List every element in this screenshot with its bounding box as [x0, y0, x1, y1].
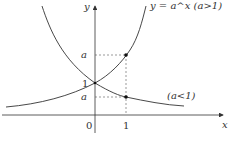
upper-a-label: a — [81, 49, 87, 60]
point-intersection — [94, 82, 97, 85]
curve-decay — [42, 6, 184, 106]
y-axis-label: y — [83, 1, 90, 12]
point-growth-at-1 — [124, 53, 128, 57]
x-axis-label: x — [222, 119, 228, 130]
y-tick-one: 1 — [82, 78, 88, 89]
curve-growth — [6, 6, 146, 107]
diagram-canvas: y x 0 1 1 a a y = a^x (a>1) (a<1) — [0, 0, 231, 141]
x-tick-one: 1 — [123, 120, 129, 131]
point-decay-at-1 — [124, 95, 128, 99]
curve-decay-label: (a<1) — [167, 90, 196, 101]
lower-a-label: a — [81, 91, 87, 102]
origin-label: 0 — [86, 120, 92, 131]
curve-growth-label: y = a^x (a>1) — [149, 0, 222, 11]
exponential-diagram: y x 0 1 1 a a y = a^x (a>1) (a<1) — [0, 0, 231, 141]
